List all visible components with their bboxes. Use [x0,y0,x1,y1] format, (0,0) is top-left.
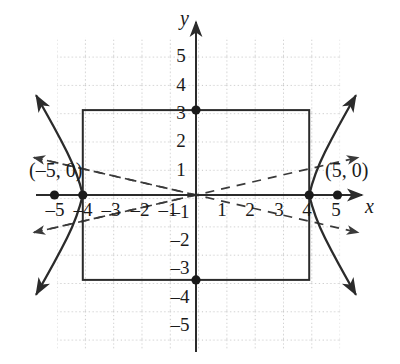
plot-canvas [0,0,400,364]
grid-layer [57,37,340,348]
y-tick--3: –3 [168,258,192,277]
y-tick-2: 2 [172,131,190,150]
y-tick-4: 4 [172,75,190,94]
focus-label-right: (5, 0) [325,160,368,180]
focus-label-left: (–5, 0) [29,160,82,180]
x-tick-2: 2 [241,200,259,219]
y-tick--1: –1 [168,202,192,221]
y-tick-5: 5 [172,46,190,65]
y-axis-label: y [180,8,189,28]
x-tick-4: 4 [298,200,316,219]
co-vertex-point-bottom [191,275,200,284]
co-vertex-point-top [191,106,200,115]
dotted-grid [57,37,340,348]
x-tick-3: 3 [270,200,288,219]
x-axis-label: x [365,196,374,216]
x-tick--4: –4 [71,200,95,219]
y-tick--2: –2 [168,230,192,249]
x-tick--3: –3 [99,200,123,219]
y-tick-1: 1 [172,160,190,179]
x-tick-5: 5 [327,200,345,219]
hyperbola-figure: y x –5 –4 –3 –2 –1 1 2 3 4 5 5 4 3 2 1 –… [0,0,400,364]
y-tick-3: 3 [172,103,190,122]
y-tick--4: –4 [168,287,192,306]
x-tick-1: 1 [213,200,231,219]
x-tick--2: –2 [128,200,152,219]
y-tick--5: –5 [168,315,192,334]
x-tick--5: –5 [43,200,67,219]
